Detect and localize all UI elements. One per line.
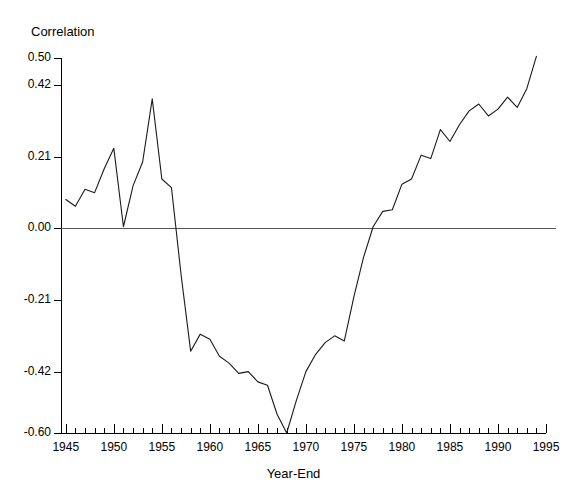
y-tick-label-5: -0.42 [5,365,51,378]
x-tick-label-3: 1960 [188,441,232,454]
y-tick-label-0: 0.50 [5,51,51,64]
x-tick-label-9: 1990 [476,441,520,454]
y-tick-label-3: 0.00 [5,221,51,234]
x-tick-label-1: 1950 [92,441,136,454]
y-tick-label-1: 0.42 [5,78,51,91]
x-tick-label-8: 1985 [428,441,472,454]
data-series-group [66,56,537,433]
y-tick-label-6: -0.60 [5,426,51,439]
x-tick-label-7: 1980 [380,441,424,454]
x-axis-title: Year-End [0,466,587,481]
axes-group [54,58,556,434]
x-tick-label-2: 1955 [140,441,184,454]
y-tick-label-2: 0.21 [5,150,51,163]
series-line-0 [66,56,537,433]
x-tick-label-5: 1970 [284,441,328,454]
x-tick-label-6: 1975 [332,441,376,454]
correlation-chart: Correlation 0.500.420.210.00-0.21-0.42-0… [0,0,587,496]
plot-area [0,0,587,496]
x-tick-label-10: 1995 [524,441,568,454]
y-tick-label-4: -0.21 [5,293,51,306]
x-tick-label-4: 1965 [236,441,280,454]
x-tick-label-0: 1945 [44,441,88,454]
